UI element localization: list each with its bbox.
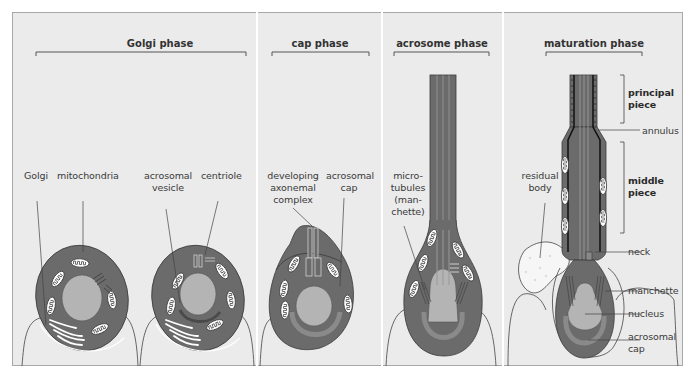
label-line: acrosomal (326, 170, 372, 182)
golgi-cell-2 (142, 237, 254, 360)
cap-phase-title: cap phase (268, 38, 372, 49)
label-line: body (518, 182, 562, 194)
label-line: residual (518, 170, 562, 182)
label-neck: neck (628, 246, 650, 258)
label-principal-piece: principal piece (628, 87, 674, 111)
label-centriole: centriole (201, 170, 242, 182)
label-line: cap (326, 182, 372, 194)
label-line: developing (267, 170, 319, 182)
label-line: tubules (388, 182, 428, 194)
label-line: chette) (388, 206, 428, 218)
label-microtubules-manchette: micro- tubules (man- chette) (388, 170, 428, 218)
label-line: piece (628, 99, 674, 111)
label-line: acrosomal (628, 331, 676, 343)
label-nucleus: nucleus (628, 308, 664, 320)
piece-brackets (620, 75, 624, 233)
cap-phase-cell (269, 226, 353, 350)
label-line: piece (628, 187, 664, 199)
label-line: complex (267, 194, 319, 206)
label-manchette: manchette (628, 285, 679, 297)
label-line: cap (628, 343, 676, 355)
golgi-cell-1 (26, 237, 138, 360)
label-residual-body: residual body (518, 170, 562, 194)
maturation-phase-cell (519, 75, 624, 358)
label-line: middle (628, 175, 664, 187)
label-acrosomal-vesicle: acrosomal vesicle (144, 170, 192, 194)
label-developing-axonemal-complex: developing axonemal complex (267, 170, 319, 206)
phase-brackets (36, 52, 642, 56)
label-acrosomal-cap-cap-phase: acrosomal cap (326, 170, 372, 194)
label-middle-piece: middle piece (628, 175, 664, 199)
label-mitochondria: mitochondria (57, 170, 119, 182)
label-line: micro- (388, 170, 428, 182)
label-acrosomal-cap-maturation: acrosomal cap (628, 331, 676, 355)
label-line: axonemal (267, 182, 319, 194)
label-line: (man- (388, 194, 428, 206)
acrosome-phase-title: acrosome phase (386, 38, 498, 49)
label-line: vesicle (144, 182, 192, 194)
maturation-phase-title: maturation phase (530, 38, 658, 49)
label-annulus: annulus (642, 125, 679, 137)
label-golgi: Golgi (24, 170, 48, 182)
label-line: acrosomal (144, 170, 192, 182)
label-line: principal (628, 87, 674, 99)
golgi-phase-title: Golgi phase (100, 38, 220, 49)
